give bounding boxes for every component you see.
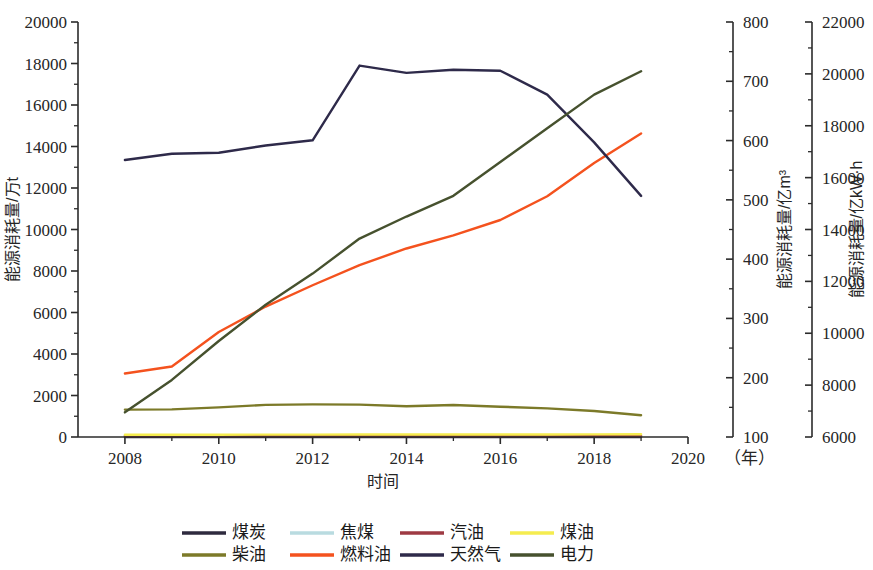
legend-label: 焦煤 <box>340 523 374 542</box>
legend-label: 电力 <box>560 545 594 564</box>
axis-tick-label: 12000 <box>25 179 68 198</box>
axis-tick-label: 10000 <box>25 221 68 240</box>
x-axis-title: 时间 <box>367 473 399 490</box>
axis-tick-label: 20000 <box>822 65 865 84</box>
legend-label: 煤油 <box>560 523 594 542</box>
x-axis-tick-label: 2010 <box>202 449 236 468</box>
axis-tick-label: 20000 <box>25 13 68 32</box>
x-axis-tick-label: 2016 <box>483 449 517 468</box>
left-axis-title: 能源消耗量/万t <box>4 177 21 282</box>
axis-tick-label: 16000 <box>25 96 68 115</box>
legend-label: 柴油 <box>232 545 266 564</box>
axis-tick-label: 8000 <box>822 376 856 395</box>
x-axis-tick-label: 2020 <box>671 449 705 468</box>
axis-tick-label: 400 <box>743 250 769 269</box>
right-axis-1-title: 能源消耗量/亿m³ <box>776 169 793 289</box>
line-chart-canvas: 0200040006000800010000120001400016000180… <box>0 0 873 570</box>
legend-label: 汽油 <box>450 523 484 542</box>
axis-tick-label: 22000 <box>822 13 865 32</box>
x-axis-tick-label: 2012 <box>296 449 330 468</box>
axis-tick-label: 800 <box>743 13 769 32</box>
axis-tick-label: 700 <box>743 72 769 91</box>
axis-tick-label: 10000 <box>822 324 865 343</box>
axis-tick-label: 500 <box>743 191 769 210</box>
axis-tick-label: 2000 <box>33 387 67 406</box>
axis-tick-label: 200 <box>743 369 769 388</box>
axis-tick-label: 8000 <box>33 262 67 281</box>
legend-label: 煤炭 <box>232 523 266 542</box>
axis-tick-label: 14000 <box>25 138 68 157</box>
chart-figure: 0200040006000800010000120001400016000180… <box>0 0 873 570</box>
x-axis-tick-label: 2008 <box>108 449 142 468</box>
axis-tick-label: 6000 <box>822 428 856 447</box>
legend-label: 燃料油 <box>340 545 391 564</box>
x-axis-unit-note: （年） <box>724 449 775 468</box>
legend-label: 天然气 <box>450 545 501 564</box>
axis-tick-label: 18000 <box>822 117 865 136</box>
axis-tick-label: 4000 <box>33 345 67 364</box>
axis-tick-label: 300 <box>743 309 769 328</box>
axis-tick-label: 0 <box>59 428 68 447</box>
axis-tick-label: 100 <box>743 428 769 447</box>
x-axis-tick-label: 2018 <box>577 449 611 468</box>
axis-tick-label: 18000 <box>25 55 68 74</box>
axis-tick-label: 600 <box>743 132 769 151</box>
right-axis-2-title: 能源消耗量/亿kW·h <box>848 161 865 299</box>
x-axis-tick-label: 2014 <box>389 449 424 468</box>
axis-tick-label: 6000 <box>33 304 67 323</box>
